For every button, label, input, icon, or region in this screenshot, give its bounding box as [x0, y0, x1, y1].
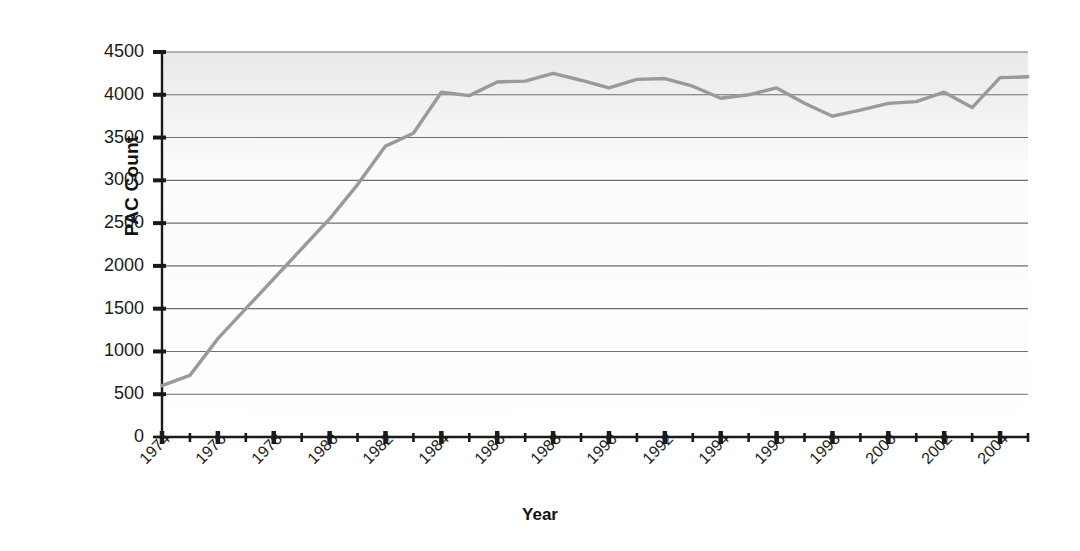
x-tick-label: 1992 — [639, 430, 677, 468]
x-tick-label: 1994 — [695, 430, 733, 468]
x-tick-label: 1984 — [415, 430, 453, 468]
x-axis-tick-labels: 1974197619781980198219841986198819901992… — [0, 0, 1080, 551]
pac-count-line-chart: PAC Count 450040003500300025002000150010… — [0, 0, 1080, 551]
x-axis-title: Year — [0, 505, 1080, 525]
x-tick-label: 1978 — [248, 430, 286, 468]
x-tick-label: 1988 — [527, 430, 565, 468]
x-tick-label: 1996 — [751, 430, 789, 468]
x-tick-label: 1990 — [583, 430, 621, 468]
x-tick-label: 2002 — [918, 430, 956, 468]
x-tick-label: 1982 — [359, 430, 397, 468]
x-tick-label: 2000 — [862, 430, 900, 468]
x-tick-label: 1980 — [304, 430, 342, 468]
x-tick-label: 1986 — [471, 430, 509, 468]
x-tick-label: 1976 — [192, 430, 230, 468]
x-tick-label: 2004 — [974, 430, 1012, 468]
x-tick-label: 1998 — [806, 430, 844, 468]
x-tick-label: 1974 — [136, 430, 174, 468]
